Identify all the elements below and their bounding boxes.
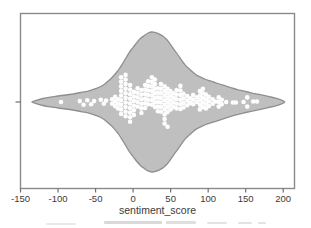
swarm-dot <box>78 99 83 104</box>
swarm-dot <box>99 97 104 102</box>
swarm-dot <box>119 107 124 112</box>
swarm-dot <box>132 108 137 113</box>
x-tick-label: 50 <box>165 193 176 204</box>
swarm-dot <box>153 82 158 87</box>
swarm-dot <box>245 95 250 100</box>
swarm-dot <box>123 100 128 105</box>
swarm-dot <box>128 120 133 125</box>
swarm-dot <box>201 86 206 91</box>
x-tick-label: -150 <box>11 193 30 204</box>
swarm-dot <box>255 99 260 104</box>
caption-fragment-mark <box>46 223 76 225</box>
swarm-dot <box>123 114 128 119</box>
x-tick-label: -50 <box>89 193 103 204</box>
swarm-dot <box>92 99 97 104</box>
swarm-dot <box>165 125 170 130</box>
swarm-dot <box>224 100 229 105</box>
swarm-dot <box>123 109 128 114</box>
swarm-dot <box>119 103 124 108</box>
swarm-dot <box>59 100 64 105</box>
swarm-dot <box>119 84 124 89</box>
caption-fragment-mark <box>258 222 266 224</box>
x-tick-label: 200 <box>275 193 291 204</box>
swarm-dot <box>119 75 124 80</box>
swarm-dot <box>123 73 128 78</box>
swarm-dot <box>123 82 128 87</box>
swarm-dot <box>119 98 124 103</box>
swarm-dot <box>123 86 128 91</box>
swarm-dot <box>153 77 158 82</box>
swarm-dot <box>241 100 246 105</box>
swarm-dot <box>119 93 124 98</box>
swarm-dot <box>81 103 86 108</box>
swarm-dot <box>143 106 148 111</box>
swarm-dot <box>219 97 224 102</box>
caption-fragment-mark <box>238 222 252 224</box>
violin-swarm-plot: -150-100-50050100150200sentiment_score <box>0 0 311 228</box>
swarm-dot <box>139 111 144 116</box>
caption-fragment-mark <box>207 222 227 224</box>
swarm-dot <box>119 80 124 85</box>
swarm-dot <box>234 100 239 105</box>
swarm-dot <box>245 104 250 109</box>
swarm-dot <box>132 113 137 118</box>
swarm-dot <box>119 112 124 117</box>
swarm-dot <box>119 89 124 94</box>
swarm-dot <box>123 96 128 101</box>
x-tick-label: 100 <box>200 193 216 204</box>
swarm-dot <box>162 117 167 122</box>
figure: -150-100-50050100150200sentiment_score <box>0 0 311 228</box>
swarm-dot <box>178 84 183 89</box>
caption-fragment-mark <box>104 221 162 224</box>
caption-fragment-mark <box>166 221 196 224</box>
x-axis-label: sentiment_score <box>119 204 196 216</box>
x-tick-label: 150 <box>238 193 254 204</box>
cropped-caption-fragment <box>0 219 311 227</box>
swarm-dot <box>128 83 133 88</box>
swarm-dot <box>123 77 128 82</box>
swarm-dot <box>123 105 128 110</box>
x-tick-label: -100 <box>49 193 68 204</box>
swarm-dot <box>104 98 109 103</box>
x-tick-label: 0 <box>130 193 135 204</box>
swarm-dot <box>123 91 128 96</box>
swarm-dot <box>85 98 90 103</box>
swarm-dot <box>219 102 224 107</box>
